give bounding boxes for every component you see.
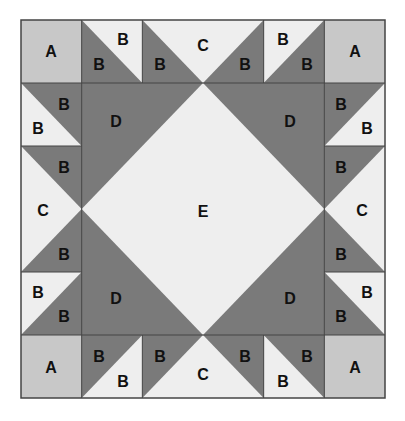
label-b-top-4-dark: B <box>301 56 313 73</box>
label-b-right-4-light: B <box>361 284 373 301</box>
label-b-top-3-dark: B <box>239 56 251 73</box>
label-b-bottom-1-light: B <box>117 373 129 390</box>
label-b-top-1-light: B <box>117 31 129 48</box>
label-b-left-2-dark: B <box>58 159 70 176</box>
label-c-right: C <box>356 202 368 219</box>
label-b-right-1-light: B <box>361 120 373 137</box>
label-b-right-4-dark: B <box>335 308 347 325</box>
label-b-right-1-dark: B <box>335 96 347 113</box>
label-b-left-1-dark: B <box>58 96 70 113</box>
label-d-bottom-left: D <box>110 290 122 307</box>
label-b-bottom-3-dark: B <box>239 348 251 365</box>
label-c-top: C <box>197 37 209 54</box>
label-b-right-2-dark: B <box>335 159 347 176</box>
label-c-bottom: C <box>197 366 209 383</box>
label-b-bottom-1-dark: B <box>93 348 105 365</box>
label-a-top-left: A <box>45 43 57 60</box>
label-e-center: E <box>198 203 209 220</box>
label-d-top-left: D <box>110 113 122 130</box>
label-b-left-1-light: B <box>32 120 44 137</box>
quilt-block-diagram: A A A A C C C C D D D D E B B B B B B B … <box>0 0 405 421</box>
label-a-bottom-left: A <box>45 359 57 376</box>
label-d-bottom-right: D <box>284 290 296 307</box>
label-b-right-3-dark: B <box>335 246 347 263</box>
label-c-left: C <box>37 202 49 219</box>
label-b-bottom-4-light: B <box>277 373 289 390</box>
label-b-top-4-light: B <box>277 31 289 48</box>
label-a-top-right: A <box>349 43 361 60</box>
label-b-bottom-2-dark: B <box>154 348 166 365</box>
label-b-left-3-dark: B <box>58 246 70 263</box>
label-b-top-1-dark: B <box>93 56 105 73</box>
label-b-top-2-dark: B <box>154 56 166 73</box>
label-a-bottom-right: A <box>349 359 361 376</box>
label-b-left-4-light: B <box>32 284 44 301</box>
label-d-top-right: D <box>284 113 296 130</box>
label-b-bottom-4-dark: B <box>301 348 313 365</box>
label-b-left-4-dark: B <box>58 308 70 325</box>
